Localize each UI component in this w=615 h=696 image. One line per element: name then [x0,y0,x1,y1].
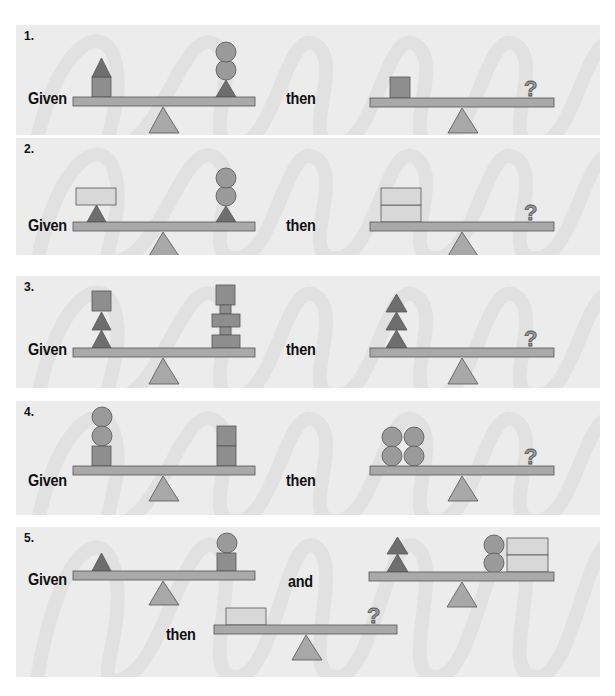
light-rectangle-weight [76,188,116,205]
question-mark-icon: ? [524,200,537,225]
beam [73,348,255,357]
problem-4-panel: 4. Given then ? [16,401,600,515]
question-mark-icon: ? [524,444,537,469]
circle-weight [404,446,424,466]
triangle-weight [387,554,408,572]
circle-weight [216,168,236,188]
fulcrum [447,582,477,607]
fulcrum [448,232,478,255]
question-scale: ? [214,603,397,660]
given-scale [73,407,255,501]
fulcrum [149,581,179,605]
circle-weight [216,186,236,206]
square-weight [92,77,111,97]
fulcrum [292,635,322,660]
triangle-weight [92,312,111,330]
given-scale [73,285,255,384]
question-mark-icon: ? [367,603,380,628]
triangle-weight [386,330,407,348]
square-weight [92,291,111,311]
light-rectangle-weight [381,205,421,222]
triangle-weight [92,330,111,348]
circle-weight [216,60,236,80]
question-scale: ? [370,76,554,133]
circle-weight [382,446,402,466]
beam [73,571,255,580]
fulcrum [448,358,478,384]
light-rectangle-weight [226,608,266,625]
fulcrum [149,107,179,133]
circle-weight [216,42,236,62]
beam [369,572,554,581]
light-rectangle-weight [507,555,548,572]
triangle-weight [216,206,236,222]
triangle-weight [216,80,236,97]
triangle-weight [87,205,106,222]
triangle-weight [387,537,408,554]
problem-1-panel: 1. Given then ? [16,25,600,135]
problem-3-panel: 3. Given then ? [16,276,600,388]
spool-weight [212,285,240,348]
circle-weight [217,533,237,553]
beam [73,97,255,106]
square-weight [92,446,111,466]
question-scale: ? [370,294,554,384]
triangle-weight [92,553,111,571]
square-weight [217,446,236,466]
given-scale [73,168,255,255]
light-rectangle-weight [507,538,548,555]
square-weight [217,426,236,446]
beam [73,466,255,475]
fulcrum [448,476,478,501]
problem-5-panel: 5. Given and then ? [16,527,600,677]
question-scale: ? [370,427,554,501]
question-mark-icon: ? [524,76,537,101]
fulcrum [149,476,179,501]
question-scale: ? [370,188,554,255]
problem-2-panel: 2. Given then ? [16,138,600,255]
triangle-weight [386,294,407,312]
triangle-weight [386,312,407,330]
triangle-weight [92,58,111,77]
square-weight [217,553,236,571]
beam [73,222,255,231]
question-mark-icon: ? [524,326,537,351]
fulcrum [149,232,179,255]
circle-weight [92,426,112,446]
given-scale-1 [73,533,255,605]
given-scale [73,42,255,133]
fulcrum [149,358,179,384]
circle-weight [404,427,424,447]
circle-weight [484,553,504,573]
circle-weight [92,407,112,427]
square-weight [390,77,410,98]
circle-weight [484,535,504,555]
circle-weight [382,427,402,447]
light-rectangle-weight [381,188,421,205]
fulcrum [448,108,478,133]
given-scale-2 [369,535,554,607]
